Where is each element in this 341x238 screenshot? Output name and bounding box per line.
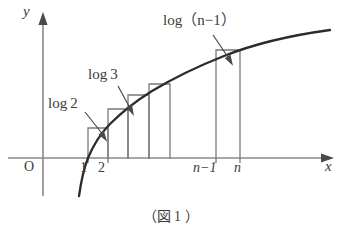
x-tick-label-2: 2 — [98, 160, 105, 176]
origin-label: O — [24, 159, 34, 175]
annotation-log-n-minus-1: log（n−1） — [163, 8, 236, 29]
y-axis — [38, 12, 47, 196]
figure-caption: （図 1 ） — [0, 205, 341, 225]
x-tick-label-n-minus-1: n−1 — [193, 160, 216, 176]
annotation-log2: log 2 — [48, 95, 78, 112]
x-axis-label: x — [325, 158, 332, 175]
x-tick-label-1: 1 — [80, 160, 87, 176]
figure-container: y x O 1 2 n−1 n log 2 log 3 log（n−1） （図 … — [0, 0, 341, 238]
annotation-log3: log 3 — [88, 66, 118, 83]
log-rectangles-diagram — [0, 0, 341, 238]
y-axis-label: y — [23, 3, 30, 20]
x-axis — [8, 153, 334, 162]
x-tick-label-n: n — [234, 160, 241, 176]
